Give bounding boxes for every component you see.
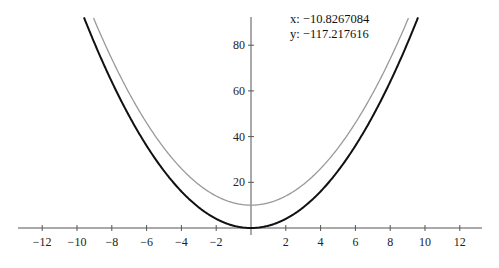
x-tick-label: −8 xyxy=(105,235,118,249)
cursor-x-value: x: −10.8267084 xyxy=(290,12,369,27)
x-tick-label: −12 xyxy=(33,235,52,249)
x-tick-label: 2 xyxy=(283,235,289,249)
x-tick-label: −4 xyxy=(175,235,188,249)
x-tick-label: 4 xyxy=(318,235,324,249)
x-tick-label: 8 xyxy=(387,235,393,249)
x-tick-label: 12 xyxy=(454,235,466,249)
x-tick-label: −10 xyxy=(68,235,87,249)
x-tick-label: −6 xyxy=(140,235,153,249)
y-tick-label: 60 xyxy=(233,84,245,98)
y-tick-label: 40 xyxy=(233,130,245,144)
x-tick-label: 10 xyxy=(419,235,431,249)
cursor-readout: x: −10.8267084 y: −117.217616 xyxy=(290,12,369,42)
cursor-y-value: y: −117.217616 xyxy=(290,27,369,42)
x-tick-label: 6 xyxy=(352,235,358,249)
y-tick-label: 20 xyxy=(233,175,245,189)
axes: −12−10−8−6−4−224681012 20406080 xyxy=(18,17,482,249)
y-tick-label: 80 xyxy=(233,38,245,52)
plot-canvas[interactable]: −12−10−8−6−4−224681012 20406080 xyxy=(0,0,499,268)
x-tick-label: −2 xyxy=(210,235,223,249)
